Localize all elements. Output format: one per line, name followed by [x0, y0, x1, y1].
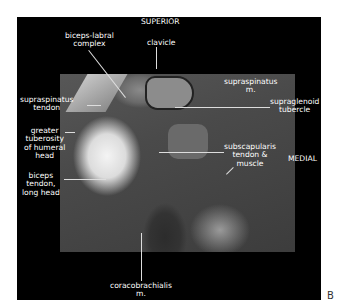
- label-biceps-labral-complex: biceps-labral complex: [65, 32, 114, 49]
- mri-figure-frame: SUPERIOR biceps-labral complex clavicle …: [17, 17, 321, 300]
- leader-line-coracobrachialis: [141, 233, 142, 281]
- label-line: tubercle: [270, 106, 319, 114]
- label-supraspinatus-tendon: supraspinatus tendon: [20, 96, 73, 113]
- label-clavicle: clavicle: [147, 39, 176, 47]
- label-line: tendon: [20, 104, 73, 112]
- leader-line-biceps-tendon: [64, 179, 106, 180]
- label-line: clavicle: [147, 39, 176, 47]
- image-bottom-mask: [60, 252, 295, 270]
- label-line: head: [24, 152, 65, 160]
- leader-line-supraspinatus-tendon: [87, 105, 101, 106]
- label-line: m.: [224, 86, 277, 94]
- label-biceps-tendon: biceps tendon, long head: [22, 172, 60, 197]
- clavicle-shape: [145, 76, 194, 110]
- figure-panel-label: B: [327, 290, 334, 301]
- label-line: complex: [65, 40, 114, 48]
- leader-line-clavicle: [156, 47, 157, 69]
- image-top-mask: [60, 52, 295, 74]
- leader-line-greater-tuberosity: [65, 132, 75, 133]
- leader-line-supraglenoid: [175, 107, 270, 108]
- leader-line-subscapularis: [159, 152, 224, 153]
- label-supraspinatus-muscle: supraspinatus m.: [224, 78, 277, 95]
- glenoid-shape: [168, 124, 208, 159]
- label-greater-tuberosity: greater tuberosity of humeral head: [24, 127, 65, 161]
- orientation-medial: MEDIAL: [288, 155, 317, 163]
- label-line: m.: [110, 290, 172, 298]
- label-line: long head: [22, 189, 60, 197]
- label-subscapularis: subscapularis tendon & muscle: [224, 143, 276, 168]
- orientation-superior: SUPERIOR: [141, 18, 180, 26]
- label-supraglenoid-tubercle: supraglenoid tubercle: [270, 98, 319, 115]
- label-coracobrachialis: coracobrachialis m.: [110, 282, 172, 299]
